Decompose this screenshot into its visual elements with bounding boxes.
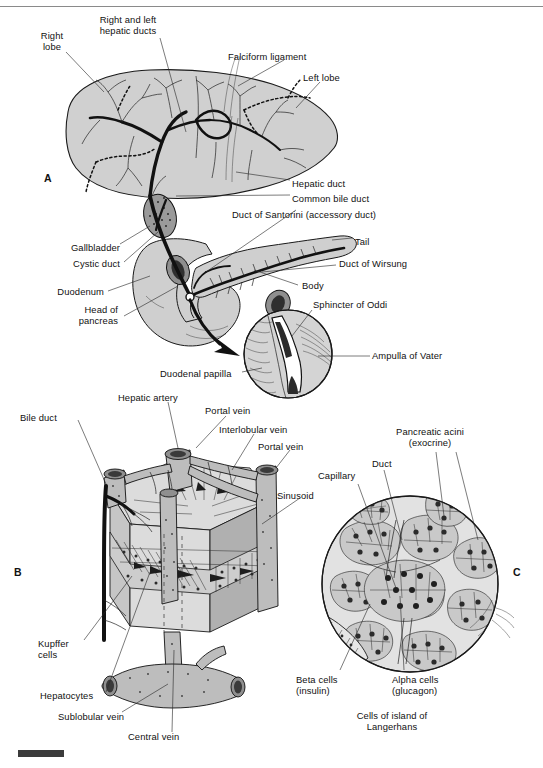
label-cells-of-island-of-langerhans: Cells of island of Langerhans [312, 710, 472, 732]
label-portal-vein-right: Portal vein [258, 441, 303, 452]
label-falciform-ligament: Falciform ligament [228, 51, 306, 62]
panel-letter-c: C [513, 566, 521, 578]
label-hepatic-artery: Hepatic artery [118, 392, 178, 403]
label-common-bile-duct: Common bile duct [292, 193, 369, 204]
figure-page: Right lobe Right and left hepatic ducts … [0, 0, 543, 768]
label-duodenal-papilla: Duodenal papilla [160, 368, 231, 379]
label-hepatocytes: Hepatocytes [40, 690, 93, 701]
figure-artwork [0, 0, 543, 768]
label-right-and-left-hepatic-ducts: Right and left hepatic ducts [68, 14, 188, 36]
label-capillary: Capillary [318, 470, 355, 481]
label-interlobular-vein: Interlobular vein [219, 424, 287, 435]
liver-lobule-illustration [102, 449, 278, 709]
label-central-vein: Central vein [128, 731, 179, 742]
label-cystic-duct: Cystic duct [36, 258, 120, 269]
sphincter-inset-illustration [244, 310, 334, 398]
label-pancreatic-acini: Pancreatic acini (exocrine) [376, 426, 484, 448]
label-ampulla-of-vater: Ampulla of Vater [372, 350, 442, 361]
label-duct: Duct [372, 458, 392, 469]
label-kupffer-cells: Kupffer cells [38, 638, 69, 660]
label-hepatic-duct: Hepatic duct [292, 178, 345, 189]
label-sphincter-of-oddi: Sphincter of Oddi [313, 299, 387, 310]
label-duct-of-santorini: Duct of Santorini (accessory duct) [232, 209, 376, 220]
label-duct-of-wirsung: Duct of Wirsung [339, 258, 407, 269]
label-body: Body [302, 280, 324, 291]
label-sublobular-vein: Sublobular vein [58, 711, 124, 722]
panel-letter-a: A [44, 172, 52, 184]
panel-letter-b: B [14, 566, 22, 578]
label-tail: Tail [355, 236, 369, 247]
label-beta-cells: Beta cells (insulin) [296, 674, 338, 696]
pancreatic-acini-illustration [290, 491, 514, 680]
label-head-of-pancreas: Head of pancreas [34, 304, 118, 326]
label-gallbladder: Gallbladder [36, 242, 120, 253]
page-scale-bar [18, 750, 64, 757]
label-portal-vein-top: Portal vein [205, 405, 250, 416]
label-duodenum: Duodenum [18, 286, 104, 297]
label-left-lobe: Left lobe [303, 72, 340, 83]
label-bile-duct: Bile duct [20, 412, 57, 423]
label-sinusoid: Sinusoid [277, 490, 314, 501]
label-alpha-cells: Alpha cells (glucagon) [392, 674, 438, 696]
